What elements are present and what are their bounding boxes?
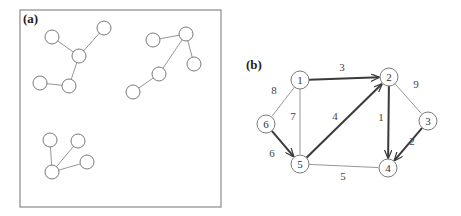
cluster-node — [71, 134, 85, 148]
edge-weight-label: 6 — [269, 147, 275, 159]
graph-node-label: 2 — [386, 71, 392, 83]
cluster-node — [62, 79, 76, 93]
panel-b-label: (b) — [246, 57, 262, 72]
edge-6-5 — [272, 131, 294, 157]
panel-b: (b) 387641925 123456 — [246, 57, 437, 182]
panel-a-edges — [40, 28, 194, 172]
edge-weight-label: 4 — [332, 110, 338, 122]
edge-1-2 — [309, 77, 379, 79]
panel-a-label: (a) — [23, 11, 38, 26]
edge-weight-label: 3 — [339, 61, 345, 73]
edge-weight-label: 5 — [340, 170, 346, 182]
cluster-node — [33, 76, 47, 90]
cluster-node — [72, 49, 86, 63]
graph-node-label: 6 — [263, 118, 269, 130]
cluster-node — [179, 27, 193, 41]
edge-5-2 — [306, 84, 381, 158]
graph-node-label: 4 — [385, 162, 391, 174]
edge-weight-label: 9 — [413, 78, 419, 90]
panel-a-nodes — [33, 21, 201, 179]
cluster-node — [126, 85, 140, 99]
cluster-node — [146, 33, 160, 47]
edge-weight-label: 7 — [290, 110, 296, 122]
cluster-node — [187, 57, 201, 71]
cluster-node — [45, 30, 59, 44]
panel-b-edges — [272, 77, 422, 167]
edge-2-4 — [388, 86, 389, 158]
edge-weight-label: 2 — [409, 135, 415, 147]
graph-diagram: (a) (b) 387641925 123456 — [0, 0, 461, 216]
cluster-node — [80, 155, 94, 169]
graph-node-label: 3 — [425, 115, 431, 127]
cluster-node — [97, 21, 111, 35]
edge-weight-label: 1 — [378, 111, 384, 123]
panel-b-nodes: 123456 — [257, 68, 437, 177]
graph-node-label: 1 — [297, 74, 303, 86]
cluster-node — [45, 165, 59, 179]
edge-5-4 — [309, 164, 378, 167]
panel-a: (a) — [20, 10, 221, 207]
cluster-node — [152, 67, 166, 81]
edge-weight-label: 8 — [271, 84, 277, 96]
graph-node-label: 5 — [297, 158, 303, 170]
cluster-node — [43, 133, 57, 147]
